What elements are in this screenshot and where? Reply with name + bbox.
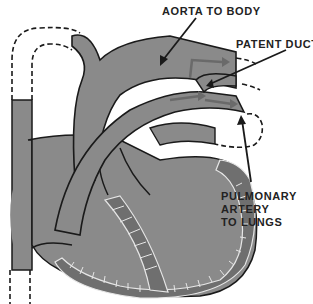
label-pulmonary-artery: PULMONARY ARTERY TO LUNGS xyxy=(221,190,297,229)
label-patent-duct: PATENT DUCT xyxy=(236,38,313,51)
label-pulmonary-line1: PULMONARY xyxy=(221,190,297,203)
label-aorta-to-body: AORTA TO BODY xyxy=(162,5,261,18)
patent-duct xyxy=(196,74,236,92)
right-pulmonary-branch xyxy=(150,123,215,145)
label-pulmonary-line3: TO LUNGS xyxy=(221,216,297,229)
label-pulmonary-line2: ARTERY xyxy=(221,203,297,216)
heart-body xyxy=(10,135,257,298)
